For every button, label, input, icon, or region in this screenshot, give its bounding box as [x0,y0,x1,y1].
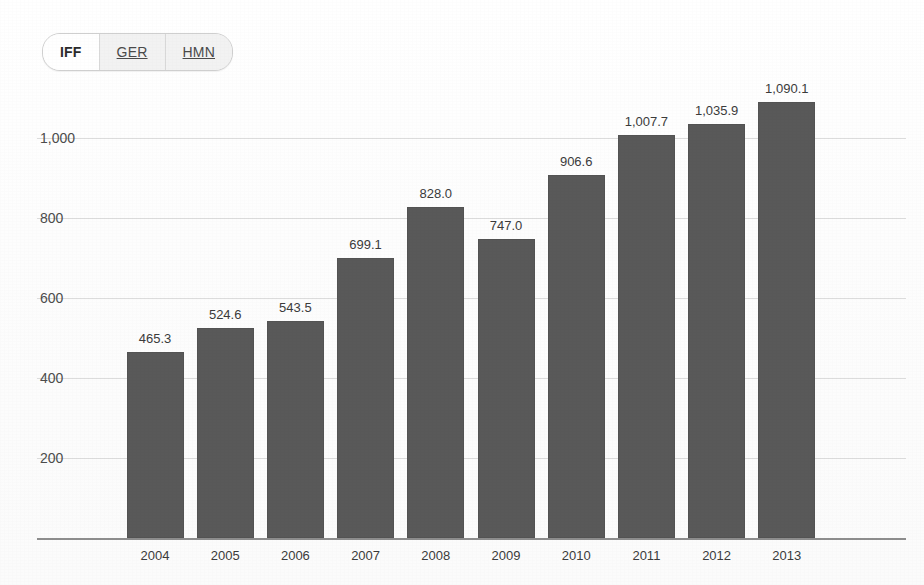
bar[interactable] [127,352,184,538]
bar[interactable] [267,321,324,538]
bar-value-label: 747.0 [490,218,523,233]
bar-value-label: 828.0 [420,186,453,201]
bar-value-label: 524.6 [209,307,242,322]
x-axis-line [37,538,906,540]
y-axis-tick-label: 400 [40,370,116,386]
bar[interactable] [407,207,464,538]
bar[interactable] [758,102,815,538]
x-axis-tick-label: 2010 [562,548,591,563]
x-axis-tick-label: 2007 [351,548,380,563]
y-axis-tick-label: 800 [40,210,116,226]
bar-value-label: 1,007.7 [625,114,668,129]
y-axis-tick-label: 200 [40,450,116,466]
y-axis-tick-label: 600 [40,290,116,306]
bar[interactable] [197,328,254,538]
bar-value-label: 465.3 [139,331,172,346]
bar-chart: 2004006008001,000465.32004524.62005543.5… [0,0,924,585]
x-axis-tick-label: 2004 [141,548,170,563]
bar-value-label: 1,090.1 [765,81,808,96]
bar[interactable] [548,175,605,538]
x-axis-tick-label: 2009 [492,548,521,563]
bar-value-label: 699.1 [349,237,382,252]
x-axis-tick-label: 2011 [632,548,660,563]
x-axis-tick-label: 2012 [702,548,731,563]
bar-value-label: 543.5 [279,300,312,315]
bar-value-label: 906.6 [560,154,593,169]
bar[interactable] [688,124,745,538]
x-axis-tick-label: 2005 [211,548,240,563]
bar[interactable] [618,135,675,538]
bar-value-label: 1,035.9 [695,103,738,118]
x-axis-tick-label: 2008 [421,548,450,563]
bar[interactable] [478,239,535,538]
x-axis-tick-label: 2013 [772,548,801,563]
x-axis-tick-label: 2006 [281,548,310,563]
bar[interactable] [337,258,394,538]
y-axis-tick-label: 1,000 [40,130,116,146]
